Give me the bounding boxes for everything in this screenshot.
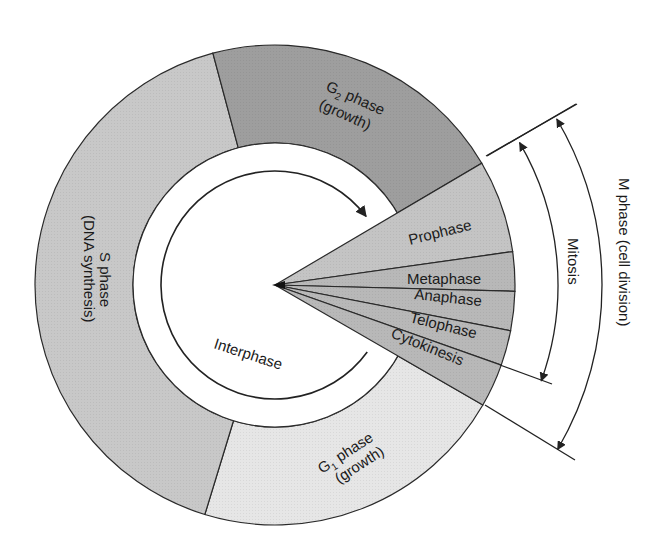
svg-text:(DNA synthesis): (DNA synthesis) [81,215,98,323]
cell-cycle-diagram: G2 phase (growth) S phase (DNA synthesis… [0,0,659,559]
svg-text:S phase: S phase [97,252,114,307]
diagram-canvas: G2 phase (growth) S phase (DNA synthesis… [0,0,659,559]
svg-text:Mitosis: Mitosis [565,238,582,285]
svg-text:M phase (cell division): M phase (cell division) [616,178,633,326]
